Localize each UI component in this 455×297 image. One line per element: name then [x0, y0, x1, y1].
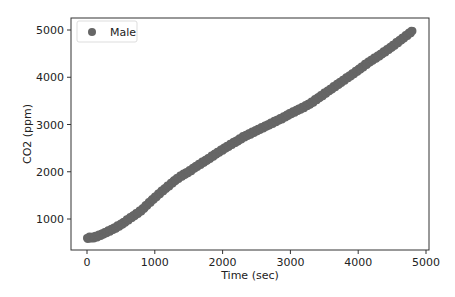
y-tick-label: 3000	[36, 119, 64, 132]
y-axis-label: CO2 (ppm)	[21, 104, 34, 164]
y-tick-label: 2000	[36, 166, 64, 179]
legend-label-male: Male	[110, 26, 136, 39]
x-axis-label: Time (sec)	[220, 269, 279, 282]
legend-marker-icon	[88, 28, 96, 36]
x-tick-label: 4000	[344, 256, 372, 269]
y-tick-label: 1000	[36, 213, 64, 226]
chart: 010002000300040005000 100020003000400050…	[0, 0, 455, 297]
data-series-male	[83, 27, 416, 243]
data-point	[408, 27, 416, 35]
y-tick-label: 5000	[36, 24, 64, 37]
x-tick-label: 5000	[412, 256, 440, 269]
x-tick-label: 3000	[276, 256, 304, 269]
x-tick-label: 0	[84, 256, 91, 269]
x-axis: 010002000300040005000	[84, 250, 441, 269]
y-tick-label: 4000	[36, 71, 64, 84]
x-tick-label: 1000	[141, 256, 169, 269]
legend: Male	[77, 21, 137, 42]
y-axis: 10002000300040005000	[36, 24, 71, 226]
x-tick-label: 2000	[209, 256, 237, 269]
